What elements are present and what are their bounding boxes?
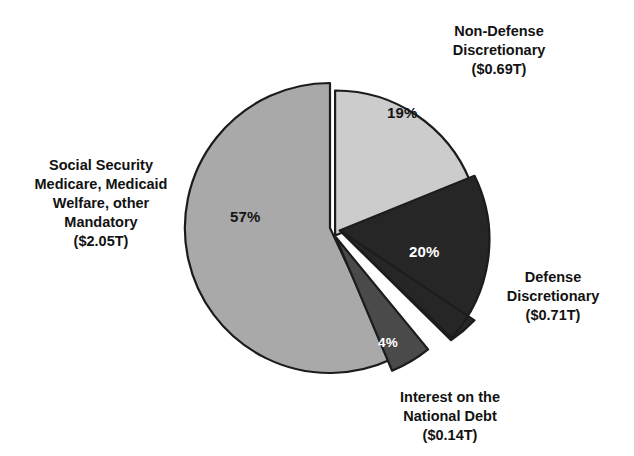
pie-label-interest-amount: ($0.14T) bbox=[370, 426, 530, 445]
pie-label-mandatory-line1: Social Security bbox=[8, 156, 194, 175]
pie-chart-figure: 57% 19% 20% 4% Social Security Medicare,… bbox=[0, 0, 634, 456]
pie-label-mandatory-line3: Welfare, other bbox=[8, 194, 194, 213]
pie-label-defense-line1: Defense bbox=[478, 268, 628, 287]
pie-label-non-defense-line1: Non-Defense bbox=[404, 22, 594, 41]
pie-label-non-defense-amount: ($0.69T) bbox=[404, 60, 594, 79]
pie-label-non-defense-discretionary: Non-Defense Discretionary ($0.69T) bbox=[404, 22, 594, 79]
pie-label-defense-amount: ($0.71T) bbox=[478, 306, 628, 325]
pie-percent-non-defense-discretionary: 19% bbox=[387, 104, 418, 121]
pie-percent-mandatory: 57% bbox=[230, 208, 261, 225]
pie-label-mandatory-amount: ($2.05T) bbox=[8, 232, 194, 251]
pie-label-non-defense-line2: Discretionary bbox=[404, 41, 594, 60]
pie-percent-defense-discretionary: 20% bbox=[409, 243, 440, 260]
pie-label-defense-line2: Discretionary bbox=[478, 287, 628, 306]
pie-label-interest-line1: Interest on the bbox=[370, 388, 530, 407]
pie-label-mandatory-line4: Mandatory bbox=[8, 213, 194, 232]
pie-label-interest-national-debt: Interest on the National Debt ($0.14T) bbox=[370, 388, 530, 445]
pie-label-mandatory-line2: Medicare, Medicaid bbox=[8, 175, 194, 194]
pie-label-mandatory: Social Security Medicare, Medicaid Welfa… bbox=[8, 156, 194, 251]
pie-percent-interest-national-debt: 4% bbox=[378, 335, 398, 350]
pie-label-interest-line2: National Debt bbox=[370, 407, 530, 426]
pie-label-defense-discretionary: Defense Discretionary ($0.71T) bbox=[478, 268, 628, 325]
